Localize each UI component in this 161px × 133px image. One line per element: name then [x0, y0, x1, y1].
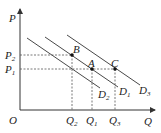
x-axis-label: Q — [144, 115, 152, 127]
demand-shift-diagram: P Q O B A C P2 P1 Q2 Q1 Q3 D2 D1 D3 — [0, 0, 161, 133]
d2-label: D2 — [97, 88, 110, 102]
point-a-label: A — [87, 57, 95, 69]
p1-label: P1 — [4, 63, 15, 77]
p2-label: P2 — [4, 49, 16, 63]
point-c-label: C — [111, 57, 119, 69]
y-axis-label: P — [8, 12, 16, 24]
d1-label: D1 — [118, 85, 130, 99]
origin-label: O — [9, 114, 17, 126]
q1-label: Q1 — [86, 114, 97, 128]
q3-label: Q3 — [109, 114, 121, 128]
point-b-label: B — [73, 43, 80, 55]
d3-label: D3 — [138, 84, 151, 98]
q2-label: Q2 — [66, 114, 78, 128]
